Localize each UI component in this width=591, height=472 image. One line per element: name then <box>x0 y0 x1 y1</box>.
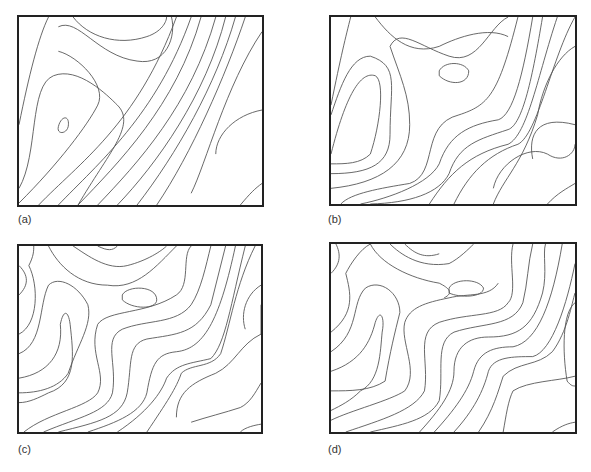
contour-panel-a <box>17 15 264 207</box>
panel-label-d: (d) <box>328 443 341 455</box>
panel-label-c: (c) <box>18 443 31 455</box>
contour-lines-c <box>19 246 261 432</box>
contour-lines-b <box>331 17 575 204</box>
panel-label-b: (b) <box>328 213 341 225</box>
contour-panel-b <box>329 15 577 206</box>
contour-panel-d <box>329 242 577 434</box>
contour-panel-c <box>17 244 263 434</box>
panel-label-a: (a) <box>18 213 31 225</box>
contour-lines-a <box>19 17 262 205</box>
contour-lines-d <box>331 244 575 432</box>
